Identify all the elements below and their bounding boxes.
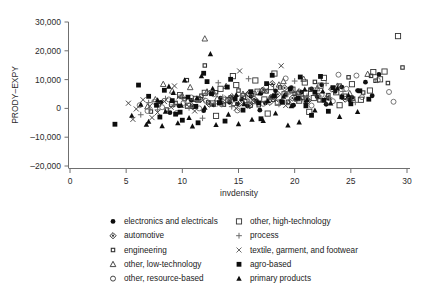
data-point	[270, 73, 275, 78]
data-point	[209, 91, 214, 96]
legend-label: other, high-technology	[250, 217, 331, 226]
data-point	[366, 97, 371, 102]
x-tick-label: 0	[68, 176, 73, 186]
data-point	[178, 110, 183, 115]
data-point	[363, 80, 368, 85]
data-point	[312, 90, 317, 95]
legend-label: other, low-technology	[124, 260, 202, 269]
data-point	[180, 118, 185, 123]
data-point	[193, 104, 198, 109]
scatter-plot: 30,00020,00010,0000–10,000–20,000 051015…	[0, 0, 423, 298]
data-point	[264, 81, 269, 86]
data-point	[162, 88, 167, 93]
data-point	[298, 75, 303, 80]
legend-right-item: textile, garment, and footwear	[237, 246, 359, 255]
data-point-core	[112, 235, 114, 237]
legend-label: engineering	[124, 246, 167, 255]
data-point	[173, 112, 178, 117]
data-point	[309, 113, 314, 118]
chart-container: 30,00020,00010,0000–10,000–20,000 051015…	[0, 0, 423, 298]
x-tick-label: 25	[346, 176, 356, 186]
legend-left-item: other, resource-based	[111, 274, 205, 283]
data-point	[248, 89, 253, 94]
data-point	[357, 88, 362, 93]
data-point	[186, 95, 191, 100]
y-tick-label: –10,000	[30, 132, 61, 142]
data-point	[205, 79, 210, 84]
data-point	[339, 94, 344, 99]
legend-label: other, resource-based	[124, 274, 204, 283]
legend-left-item: electronics and electricals	[111, 217, 218, 226]
data-point	[288, 87, 293, 92]
data-point	[326, 109, 331, 114]
data-point-core	[277, 93, 279, 95]
data-point-core	[239, 102, 241, 104]
x-tick-label: 5	[124, 176, 129, 186]
legend-right-item: other, high-technology	[236, 217, 331, 226]
data-point	[113, 122, 118, 127]
legend-marker-icon	[111, 219, 116, 224]
data-point	[241, 108, 246, 113]
data-point	[170, 98, 175, 103]
data-point	[272, 93, 277, 98]
data-point	[318, 74, 323, 79]
x-tick-label: 30	[402, 176, 412, 186]
x-axis-title: invdensity	[220, 188, 259, 198]
data-point	[257, 108, 262, 113]
data-point	[157, 115, 162, 120]
data-point-core	[291, 97, 293, 99]
y-tick-label: 20,000	[35, 46, 61, 56]
y-tick-label: 0	[56, 103, 61, 113]
data-point	[233, 96, 238, 101]
legend-label: agro-based	[250, 260, 292, 269]
data-point	[223, 119, 228, 124]
y-tick-label: 30,000	[35, 17, 61, 27]
data-point	[154, 103, 159, 108]
legend-label: automotive	[124, 231, 164, 240]
x-tick-label: 10	[178, 176, 188, 186]
x-tick-label: 20	[290, 176, 300, 186]
x-tick-label: 15	[234, 176, 244, 186]
data-point	[256, 101, 261, 106]
y-axis-title: PRODY–EXPY	[10, 66, 20, 124]
legend-left-item: other, low-technology	[110, 260, 202, 269]
data-point	[136, 83, 141, 88]
data-point	[280, 100, 285, 105]
y-tick-label: 10,000	[35, 75, 61, 85]
data-point	[196, 120, 201, 125]
y-tick-label: –20,000	[30, 161, 61, 171]
data-point	[304, 103, 309, 108]
data-point-core	[249, 105, 251, 107]
data-point	[296, 96, 301, 101]
legend-label: process	[250, 231, 279, 240]
data-point	[377, 72, 382, 77]
data-point-core	[283, 87, 285, 89]
data-point	[330, 85, 335, 90]
legend-marker-icon	[237, 262, 242, 267]
legend-label: electronics and electricals	[124, 217, 218, 226]
data-point	[146, 94, 151, 99]
data-point	[348, 101, 353, 106]
legend-label: primary products	[250, 274, 311, 283]
legend-label: textile, garment, and footwear	[250, 246, 358, 255]
chart-background	[0, 0, 423, 298]
data-point	[321, 98, 326, 103]
data-point	[225, 85, 230, 90]
data-point	[228, 77, 233, 82]
